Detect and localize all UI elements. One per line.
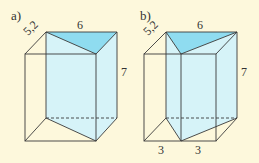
figure-a-label: a)	[11, 9, 21, 22]
figure-a-top-edge-label: 6	[77, 19, 83, 31]
figure-b-bottom-label-left: 3	[158, 144, 164, 156]
figure-b-height-label: 7	[241, 66, 247, 78]
figure-b	[144, 32, 237, 141]
figure-a	[25, 32, 117, 141]
prism-diagrams	[0, 0, 259, 163]
figure-a-height-label: 7	[121, 66, 127, 78]
figure-b-bottom-label-right: 3	[195, 144, 201, 156]
diagram-panel: a) 6 5,2 7 b) 6 5,2 7 3 3	[0, 0, 259, 163]
figure-b-top-edge-label: 6	[197, 19, 203, 31]
